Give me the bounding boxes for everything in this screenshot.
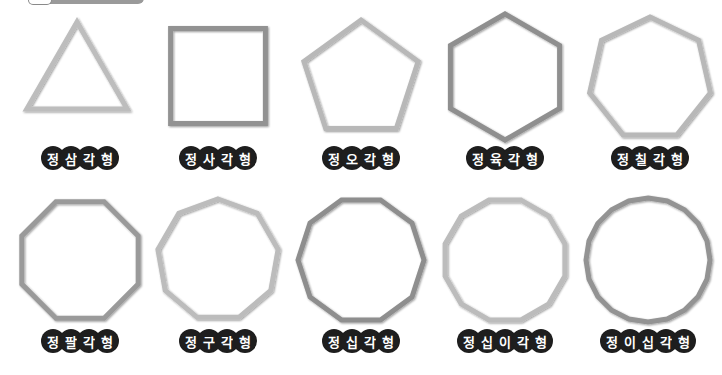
label-char: 형 [96,330,118,352]
label-char: 형 [234,147,256,169]
square-shape [171,29,266,124]
dodecagon-label: 정십이각형 [458,330,552,352]
label-char: 형 [234,330,256,352]
label-char: 형 [666,147,688,169]
square-label: 정사각형 [180,147,256,169]
nonagon-shape [158,199,278,317]
icosagon-shape [586,198,710,322]
label-char: 형 [521,147,543,169]
label-char: 형 [96,147,118,169]
label-char: 형 [673,330,695,352]
label-char: 형 [377,147,399,169]
octagon-label: 정팔각형 [42,330,118,352]
triangle-shape [27,22,127,109]
icosagon-label: 정이십각형 [601,330,695,352]
hexagon-label: 정육각형 [467,147,543,169]
label-char: 형 [377,330,399,352]
nonagon-label: 정구각형 [180,330,256,352]
pentagon-shape [304,20,418,129]
decagon-label: 정십각형 [323,330,399,352]
octagon-shape [22,202,138,318]
hexagon-shape [450,14,559,140]
polygon-diagram [0,0,722,375]
triangle-label: 정삼각형 [42,147,118,169]
dodecagon-shape [445,200,565,320]
heptagon-shape [590,17,711,135]
decagon-shape [298,200,424,320]
heptagon-label: 정칠각형 [612,147,688,169]
pentagon-label: 정오각형 [323,147,399,169]
label-char: 형 [530,330,552,352]
